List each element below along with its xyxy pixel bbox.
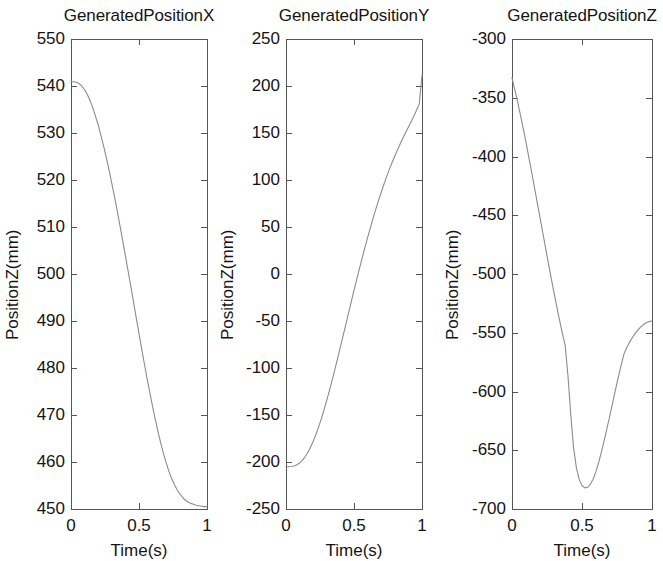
y-tick-label: 480 [9,359,65,376]
x-tick-label: 0 [41,517,101,534]
y-tick-label: -150 [224,406,280,423]
y-tick-label: 50 [224,218,280,235]
y-tick-label: 540 [9,77,65,94]
x-tick-label: 0.5 [552,517,612,534]
y-tick-label: 200 [224,77,280,94]
y-tick-label: -600 [440,383,506,400]
y-tick-label: 250 [224,30,280,47]
y-tick-label: 490 [9,312,65,329]
x-tick-label: 0 [256,517,316,534]
y-tick-label: 500 [9,265,65,282]
y-tick-label: 100 [224,171,280,188]
y-tick-label: 510 [9,218,65,235]
data-series-line [512,78,652,488]
y-tick-label: -550 [440,324,506,341]
y-tick-label: -100 [224,359,280,376]
y-tick-label: -350 [440,89,506,106]
chart-panel: GeneratedPositionXPositionZ(mm)Time(s)45… [0,0,215,558]
axes-box [72,40,208,510]
x-tick-label: 1 [622,517,663,534]
y-tick-label: -200 [224,453,280,470]
data-series-line [286,75,422,467]
y-tick-label: 450 [9,500,65,517]
y-tick-label: -500 [440,265,506,282]
y-tick-label: 520 [9,171,65,188]
x-tick-label: 0.5 [324,517,384,534]
x-tick-label: 0 [482,517,542,534]
y-tick-label: -450 [440,206,506,223]
y-tick-label: 0 [224,265,280,282]
y-tick-label: -400 [440,148,506,165]
y-tick-label: 460 [9,453,65,470]
chart-panel: GeneratedPositionZPositionZ(mm)Time(s)-7… [430,0,663,558]
y-tick-label: 530 [9,124,65,141]
data-series-line [71,82,207,507]
y-tick-label: 150 [224,124,280,141]
y-tick-label: 470 [9,406,65,423]
y-tick-label: -700 [440,500,506,517]
y-tick-label: -50 [224,312,280,329]
axes-box [513,40,653,510]
y-tick-label: -250 [224,500,280,517]
chart-panel: GeneratedPositionYPositionZ(mm)Time(s)-2… [215,0,430,558]
y-tick-label: -650 [440,441,506,458]
y-tick-label: 550 [9,30,65,47]
x-tick-label: 0.5 [109,517,169,534]
axes-box [287,40,423,510]
y-tick-label: -300 [440,30,506,47]
